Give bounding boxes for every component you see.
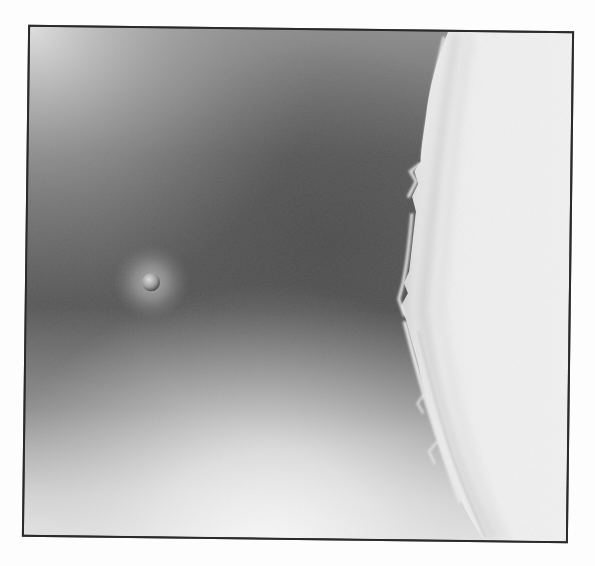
grain-overlay (24, 27, 572, 542)
illustration (24, 27, 572, 542)
image-frame (22, 25, 574, 544)
page (0, 0, 595, 566)
